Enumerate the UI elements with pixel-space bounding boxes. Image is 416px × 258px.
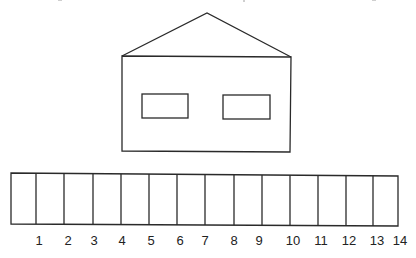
strip-label: 6 xyxy=(176,233,183,248)
cropped-remnant xyxy=(372,0,376,1)
strip-label: 7 xyxy=(201,233,208,248)
strip-label: 1 xyxy=(35,233,42,248)
house-roof xyxy=(122,13,291,57)
strip-label: 5 xyxy=(147,233,154,248)
house-window-left xyxy=(142,94,188,118)
house-window-right xyxy=(223,95,270,119)
strip-label: 12 xyxy=(342,233,356,248)
strip-label: 10 xyxy=(286,233,300,248)
strip-label: 13 xyxy=(370,233,384,248)
number-strip: 1234567891011121314 xyxy=(11,173,407,248)
strip-label: 8 xyxy=(230,233,237,248)
house-wall xyxy=(122,56,291,152)
strip-label: 9 xyxy=(255,233,262,248)
cropped-remnant xyxy=(243,0,245,2)
cropped-remnant xyxy=(58,0,62,1)
strip-label: 4 xyxy=(118,233,125,248)
strip-label: 14 xyxy=(393,233,407,248)
diagram-canvas: 1234567891011121314 xyxy=(0,0,416,258)
house xyxy=(122,13,291,152)
strip-label: 2 xyxy=(64,233,71,248)
strip-label: 11 xyxy=(314,233,328,248)
strip-label: 3 xyxy=(90,233,97,248)
